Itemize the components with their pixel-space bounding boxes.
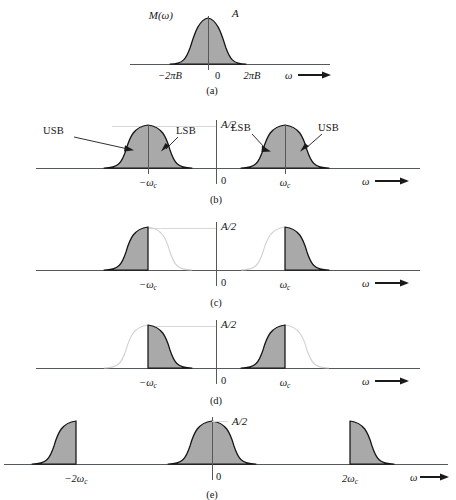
panel-b-tick-negative: −ωc (139, 177, 158, 190)
panel-b-usb-right-text: USB (318, 122, 339, 133)
panel-e-lobe-positive (350, 421, 394, 464)
panel-e-tick-zero: 0 (216, 471, 221, 482)
panel-b-omega-label: ω (362, 176, 369, 187)
panel-d-lobe-positive (241, 325, 285, 368)
panel-a-caption: (a) (206, 85, 218, 96)
panel-c-tick-positive: ωc (280, 279, 291, 292)
panel-b-caption: (b) (210, 194, 223, 206)
panel-e-amplitude-label: A/2 (231, 415, 248, 427)
panel-a-axis-arrow (298, 72, 331, 79)
panel-e-axis-arrow (420, 474, 449, 481)
panel-e-omega-label: ω (410, 472, 417, 483)
panel-d-lobe-negative (148, 325, 192, 368)
panel-b-lsb-right-text: LSB (231, 122, 251, 133)
panel-b-annotation-usb-right: USB (300, 122, 339, 152)
panel-c-ghost-negative (148, 227, 192, 270)
figure-root: M(ω) A −2πB 0 2πB ω (a) A/2 USB LSB (0, 0, 456, 500)
panel-c-amplitude-label: A/2 (220, 220, 237, 232)
panel-e-tick-positive: 2ωc (342, 473, 359, 486)
panel-c: A/2 −ωc 0 ωc ω (c) (0, 208, 456, 310)
panel-a-amplitude-label: A (231, 7, 239, 19)
panel-b: A/2 USB LSB LSB USB −ωc 0 ωc ω (b) (0, 100, 456, 206)
panel-c-ghost-positive (241, 227, 285, 270)
panel-b-tick-zero: 0 (221, 175, 226, 186)
panel-d-amplitude-label: A/2 (220, 318, 237, 330)
panel-c-caption: (c) (210, 297, 222, 309)
panel-b-lsb-left-text: LSB (176, 125, 196, 136)
panel-c-axis-arrow (375, 280, 409, 287)
panel-b-annotation-lsb-right: LSB (231, 122, 271, 152)
panel-b-usb-left-text: USB (43, 125, 64, 136)
panel-c-lobe-positive (285, 227, 329, 270)
panel-e-tick-negative: −2ωc (64, 473, 88, 486)
panel-a-tick-minus: −2πB (158, 70, 183, 81)
panel-b-tick-positive: ωc (280, 177, 291, 190)
panel-e: A/2 −2ωc 0 2ωc ω (e) (0, 408, 456, 500)
panel-d-tick-negative: −ωc (139, 377, 158, 390)
panel-c-tick-zero: 0 (221, 277, 226, 288)
panel-d-tick-positive: ωc (280, 377, 291, 390)
panel-a-tick-zero: 0 (215, 70, 220, 81)
panel-d-caption: (d) (210, 395, 223, 407)
panel-d-tick-zero: 0 (221, 375, 226, 386)
panel-d-axis-arrow (375, 378, 409, 385)
panel-c-lobe-negative (104, 227, 148, 270)
panel-b-annotation-usb-left: USB (43, 125, 134, 152)
panel-b-axis-arrow (375, 178, 409, 185)
panel-d-ghost-positive (285, 325, 329, 368)
panel-d-ghost-negative (104, 325, 148, 368)
panel-a: M(ω) A −2πB 0 2πB ω (a) (0, 0, 456, 96)
panel-e-lobe-negative (32, 421, 76, 464)
panel-d-omega-label: ω (362, 376, 369, 387)
panel-d: A/2 −ωc 0 ωc ω (d) (0, 310, 456, 408)
panel-c-tick-negative: −ωc (139, 279, 158, 292)
panel-a-signal-label: M(ω) (148, 9, 174, 22)
panel-a-omega-label: ω (285, 70, 292, 81)
panel-a-tick-plus: 2πB (244, 70, 262, 81)
panel-e-caption: (e) (206, 489, 218, 500)
panel-c-omega-label: ω (362, 278, 369, 289)
